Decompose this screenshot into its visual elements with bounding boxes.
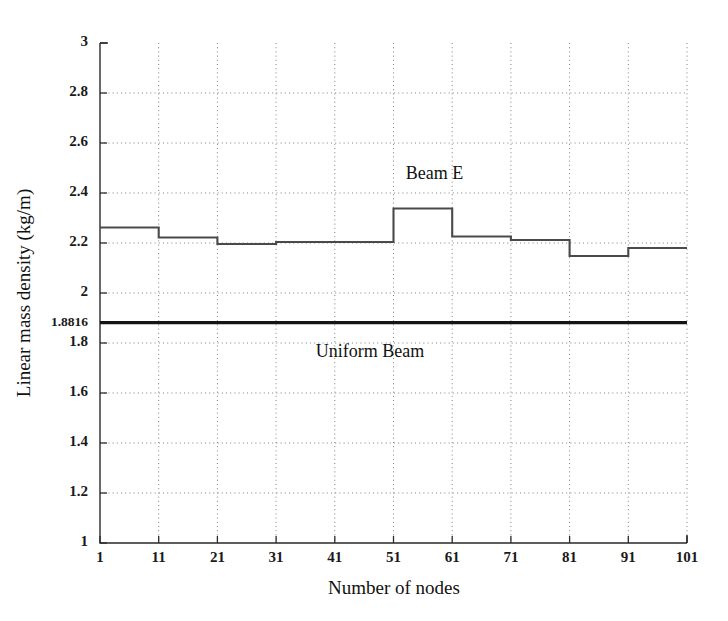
x-tick-label: 21 [210,549,225,565]
y-tick-label: 1 [81,533,89,549]
y-tick-label: 1.6 [69,383,88,399]
x-tick-label: 51 [386,549,401,565]
y-tick-label: 2.4 [69,183,88,199]
x-tick-label: 41 [327,549,342,565]
y-tick-label: 2 [81,283,89,299]
x-tick-label: 31 [269,549,284,565]
x-tick-label: 91 [621,549,636,565]
x-tick-label: 11 [152,549,166,565]
y-tick-label: 3 [81,33,89,49]
x-axis-title: Number of nodes [328,577,460,598]
x-tick-label: 71 [503,549,518,565]
annotation-beam-e: Beam E [406,163,463,183]
y-tick-label: 1.8816 [51,314,88,329]
y-tick-label: 2.8 [69,83,88,99]
y-axis-title: Linear mass density (kg/m) [13,189,35,397]
chart-figure: 11.21.41.61.81.881622.22.42.62.83 111213… [0,0,728,621]
x-tick-label: 61 [445,549,460,565]
x-tick-label: 1 [96,549,104,565]
x-tick-label: 81 [562,549,577,565]
y-tick-label: 1.8 [69,333,88,349]
y-tick-label: 1.2 [69,483,88,499]
chart-canvas: 11.21.41.61.81.881622.22.42.62.83 111213… [0,0,728,621]
y-tick-label: 2.2 [69,233,88,249]
annotation-uniform-beam: Uniform Beam [316,341,424,361]
x-tick-label: 101 [676,549,699,565]
y-tick-label: 1.4 [69,433,88,449]
y-tick-label: 2.6 [69,133,88,149]
